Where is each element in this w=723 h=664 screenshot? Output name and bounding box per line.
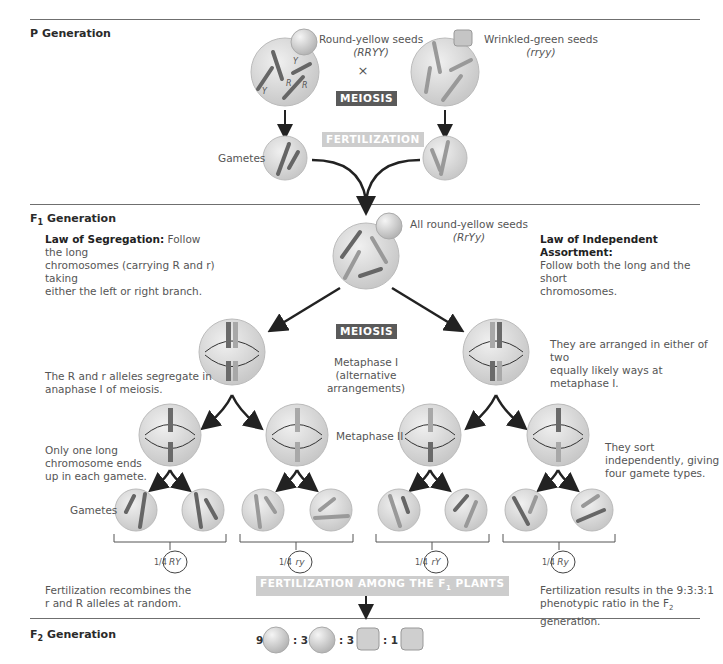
- gamete-genotype-3: rY: [424, 556, 448, 569]
- segregate-note: The R and r alleles segregate inanaphase…: [45, 370, 212, 396]
- svg-text:R: R: [286, 79, 292, 88]
- law-of-segregation-note: Law of Segregation: Follow the longchrom…: [45, 233, 220, 298]
- one-long-chromosome-note: Only one longchromosome endsup in each g…: [45, 444, 147, 483]
- metaphase2-label: Metaphase II: [336, 430, 403, 443]
- p-fertilization-label: FERTILIZATION: [322, 132, 424, 147]
- f1-gametes: [115, 489, 613, 531]
- wrinkled-green-seed-icon: [454, 30, 472, 46]
- p-gametes-label: Gametes: [218, 152, 265, 165]
- f2-count-2: : 3: [293, 634, 308, 647]
- p-meiosis-label: MEIOSIS: [336, 91, 397, 106]
- parent1-cell: Y Y R R: [251, 29, 319, 106]
- parent2-label: Wrinkled-green seeds(rryy): [476, 33, 606, 59]
- f1-gametes-label: Gametes: [70, 504, 117, 517]
- gamete-genotype-1: RY: [163, 556, 187, 569]
- p-gamete-2: [423, 136, 467, 180]
- f1-seed-label: All round-yellow seeds(RrYy): [404, 218, 534, 244]
- f1-fertilization-label: FERTILIZATION AMONG THE F1 PLANTS: [256, 576, 509, 596]
- gamete-brackets: [114, 534, 615, 550]
- law-of-independent-assortment-note: Law of Independent Assortment:Follow bot…: [540, 233, 720, 298]
- metaphase1-label: Metaphase I(alternativearrangements): [326, 356, 406, 395]
- cross-symbol: ×: [353, 64, 373, 77]
- f1-meiosis-label: MEIOSIS: [336, 324, 397, 339]
- round-yellow-seed-icon: [291, 29, 317, 55]
- f2-count-1: 9: [256, 634, 263, 647]
- gamete-genotype-2: ry: [288, 556, 312, 569]
- f2-count-3: : 3: [339, 634, 354, 647]
- f1-cell: [333, 213, 402, 289]
- arranged-note: They are arranged in either of twoequall…: [550, 338, 723, 390]
- recombine-note: Fertilization recombines ther and R alle…: [45, 584, 191, 610]
- svg-text:R: R: [302, 81, 308, 90]
- f1-seed-icon: [376, 213, 402, 239]
- metaphase1-right-cell: [463, 319, 529, 385]
- sort-independently-note: They sortindependently, givingfour gamet…: [605, 441, 719, 480]
- ratio-note: Fertilization results in the 9:3:3:1phen…: [540, 584, 723, 628]
- parent1-label: Round-yellow seeds(RRYY): [316, 33, 426, 59]
- p-gamete-1: [263, 136, 307, 180]
- f2-count-4: : 1: [383, 634, 398, 647]
- gamete-genotype-4: Ry: [551, 556, 575, 569]
